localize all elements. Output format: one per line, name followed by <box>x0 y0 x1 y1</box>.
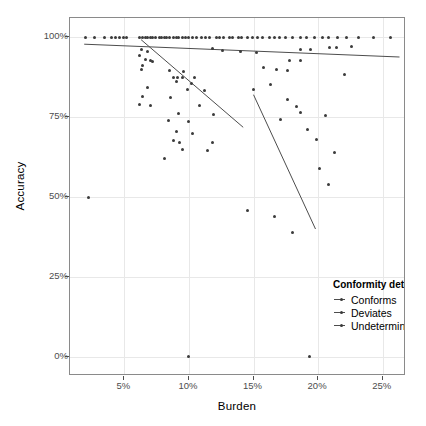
data-point <box>114 36 117 39</box>
data-point <box>191 132 194 135</box>
data-point <box>122 36 125 39</box>
data-point <box>305 36 308 39</box>
data-point <box>93 36 96 39</box>
data-point <box>313 36 316 39</box>
data-point <box>389 36 392 39</box>
data-point <box>299 111 302 114</box>
data-point <box>141 64 144 67</box>
data-point <box>273 36 276 39</box>
data-point <box>211 47 214 50</box>
x-tick-mark <box>188 376 189 380</box>
data-point <box>237 36 240 39</box>
data-point <box>288 59 291 62</box>
data-point <box>208 36 211 39</box>
x-tick-mark <box>253 376 254 380</box>
legend: Conformity determination ConformsDeviate… <box>333 279 405 332</box>
data-point <box>181 76 184 79</box>
data-point <box>321 36 324 39</box>
data-point <box>211 141 214 144</box>
data-point <box>140 68 143 71</box>
data-point <box>144 58 147 61</box>
legend-entry[interactable]: Conforms <box>333 293 405 306</box>
data-point <box>345 36 348 39</box>
x-tick-mark <box>123 376 124 380</box>
legend-entry[interactable]: Deviates <box>333 306 405 319</box>
data-point <box>184 36 187 39</box>
data-point <box>275 68 278 71</box>
data-point <box>327 183 330 186</box>
data-point <box>336 36 339 39</box>
data-point <box>273 215 276 218</box>
data-point <box>154 36 157 39</box>
data-point <box>215 36 218 39</box>
data-point <box>221 49 224 52</box>
data-point <box>190 82 193 85</box>
data-point <box>291 36 294 39</box>
data-point <box>335 46 338 49</box>
y-tick-label: 25% <box>8 271 68 281</box>
x-tick-label: 5% <box>103 381 143 391</box>
data-point <box>167 119 170 122</box>
data-point <box>299 59 302 62</box>
data-point <box>87 196 90 199</box>
data-point <box>308 355 311 358</box>
y-tick-label: 50% <box>8 191 68 201</box>
data-point <box>138 54 141 57</box>
data-point <box>203 89 206 92</box>
data-point <box>175 130 178 133</box>
data-point <box>110 36 113 39</box>
data-point <box>299 48 302 51</box>
data-point <box>228 36 231 39</box>
legend-key-icon <box>333 306 346 319</box>
x-tick-mark <box>317 376 318 380</box>
data-point <box>118 36 121 39</box>
data-point <box>168 36 171 39</box>
data-point <box>268 36 271 39</box>
legend-title: Conformity determination <box>333 279 405 290</box>
data-point <box>255 51 258 54</box>
scatter-chart: Accuracy 0%25%50%75%100% Conformity dete… <box>0 0 426 426</box>
data-point <box>204 36 207 39</box>
data-point <box>172 139 175 142</box>
data-point <box>176 76 179 79</box>
data-point <box>372 36 375 39</box>
legend-entry[interactable]: Undetermined <box>333 319 405 332</box>
data-point <box>177 112 180 115</box>
data-point <box>163 157 166 160</box>
y-tick-label: 0% <box>8 351 68 361</box>
legend-label: Undetermined <box>351 320 405 332</box>
data-point <box>286 69 289 72</box>
trend-line <box>254 95 316 229</box>
y-tick-label: 100% <box>8 31 68 41</box>
legend-key-icon <box>333 293 346 306</box>
data-point <box>252 88 255 91</box>
data-point <box>151 60 154 63</box>
data-point <box>212 113 215 116</box>
data-point <box>186 88 189 91</box>
legend-label: Deviates <box>351 307 392 319</box>
data-point <box>172 76 175 79</box>
legend-entries: ConformsDeviatesUndetermined <box>333 293 405 332</box>
data-point <box>181 148 184 151</box>
data-point <box>256 36 259 39</box>
data-point <box>140 48 143 51</box>
y-tick-label: 75% <box>8 111 68 121</box>
data-point <box>357 36 360 39</box>
data-point <box>251 36 254 39</box>
data-point <box>149 104 152 107</box>
legend-key-icon <box>333 319 346 332</box>
data-point <box>278 36 281 39</box>
plot-panel: Conformity determination ConformsDeviate… <box>69 17 405 375</box>
x-axis-title: Burden <box>69 400 405 412</box>
data-point <box>327 36 330 39</box>
data-point <box>206 149 209 152</box>
data-point <box>246 209 249 212</box>
data-point <box>291 231 294 234</box>
data-point <box>309 48 312 51</box>
data-point <box>299 36 302 39</box>
data-point <box>177 36 180 39</box>
data-point <box>84 36 87 39</box>
data-point <box>269 83 272 86</box>
data-point <box>261 36 264 39</box>
data-point <box>286 98 289 101</box>
